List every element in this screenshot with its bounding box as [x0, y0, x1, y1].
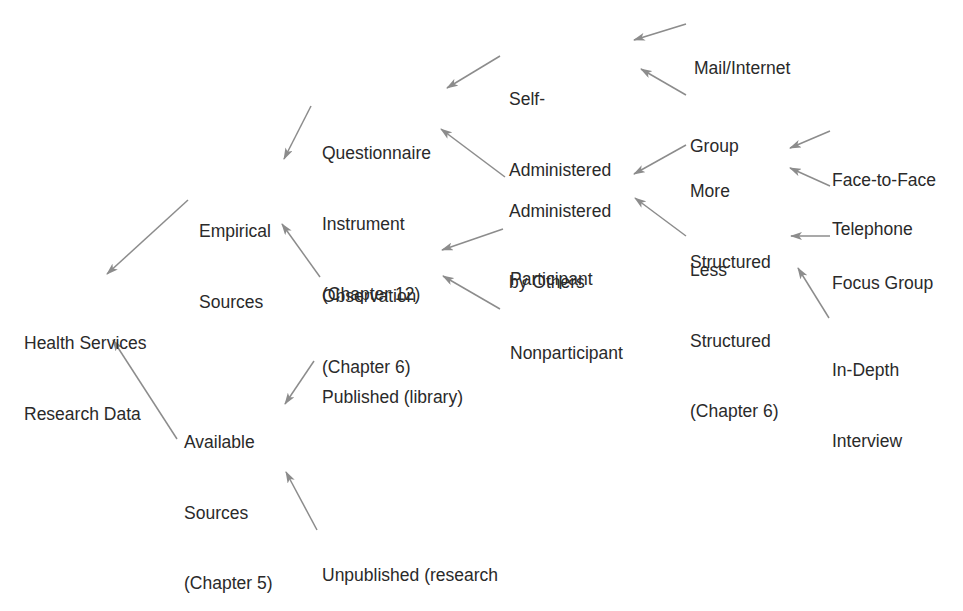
edge-in-depth-interview-to-less-structured: [798, 268, 829, 318]
node-published-library: Published (library): [322, 339, 463, 433]
edge-administered-by-others-to-questionnaire: [441, 129, 505, 177]
edge-mail-internet-to-self-administered: [634, 24, 686, 40]
node-line: Self-: [509, 88, 611, 112]
node-health-services-research-data: Health Services Research Data: [24, 285, 147, 450]
node-line: Nonparticipant: [510, 342, 623, 366]
node-line: Published (library): [322, 386, 463, 410]
node-focus-group: Focus Group: [832, 225, 933, 319]
node-unpublished: Unpublished (research institutions, offi…: [322, 517, 516, 611]
node-line: More: [690, 180, 771, 204]
edge-more-structured-to-administered-by-others: [634, 145, 686, 174]
node-line: Mail/Internet: [694, 57, 790, 81]
edge-questionnaire-to-empirical: [284, 106, 311, 159]
edge-group-to-self-administered: [641, 69, 686, 95]
edge-face-to-face-to-more-structured: [790, 131, 830, 148]
node-empirical-sources: Empirical Sources: [199, 173, 271, 338]
node-line: (Chapter 6): [690, 400, 779, 424]
edge-observation-to-empirical: [282, 224, 320, 277]
edge-less-structured-to-administered-by-others: [635, 198, 686, 236]
node-line: (Chapter 5): [184, 572, 273, 596]
edge-empirical-to-root: [107, 200, 188, 274]
edge-telephone-to-more-structured: [790, 168, 830, 186]
node-line: Interview: [832, 430, 902, 454]
node-line: Sources: [199, 291, 271, 315]
node-line: Administered: [509, 200, 611, 224]
node-line: Observation: [322, 285, 416, 309]
node-line: Less: [690, 259, 779, 283]
node-nonparticipant: Nonparticipant: [510, 295, 623, 389]
node-line: Health Services: [24, 332, 147, 356]
node-available-sources: Available Sources (Chapter 5): [184, 384, 273, 611]
edge-participant-to-observation: [442, 229, 503, 250]
edge-published-to-available: [285, 361, 314, 404]
edge-self-administered-to-questionnaire: [447, 56, 500, 88]
node-line: Focus Group: [832, 272, 933, 296]
node-line: In-Depth: [832, 359, 902, 383]
node-less-structured: Less Structured (Chapter 6): [690, 212, 779, 447]
edge-nonparticipant-to-observation: [443, 276, 500, 309]
node-line: Participant: [510, 268, 593, 292]
node-line: Empirical: [199, 220, 271, 244]
node-line: Structured: [690, 330, 779, 354]
node-line: Unpublished (research: [322, 564, 516, 588]
node-in-depth-interview: In-Depth Interview: [832, 312, 902, 477]
edge-unpublished-to-available: [286, 472, 317, 530]
node-line: Sources: [184, 502, 273, 526]
node-line: Questionnaire: [322, 142, 431, 166]
node-line: Instrument: [322, 213, 431, 237]
node-line: Available: [184, 431, 273, 455]
node-line: Research Data: [24, 403, 147, 427]
